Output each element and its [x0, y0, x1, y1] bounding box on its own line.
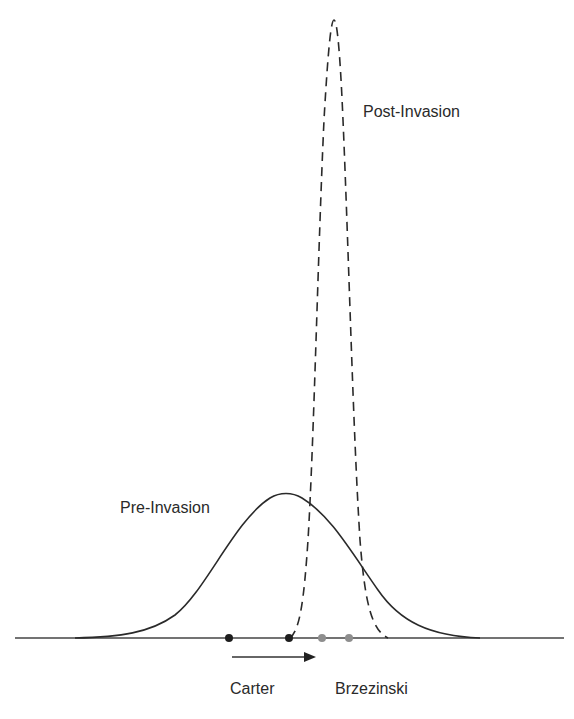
position-dot-2 [285, 634, 293, 642]
position-dot-1 [225, 634, 233, 642]
carter-label: Carter [230, 681, 274, 697]
arrow-right-icon [304, 652, 316, 662]
position-dot-3 [318, 634, 326, 642]
brzezinski-label: Brzezinski [335, 681, 408, 697]
pre-invasion-label: Pre-Invasion [120, 500, 210, 516]
post-invasion-label: Post-Invasion [363, 104, 460, 120]
distribution-diagram [0, 0, 574, 719]
position-dot-4 [345, 634, 353, 642]
